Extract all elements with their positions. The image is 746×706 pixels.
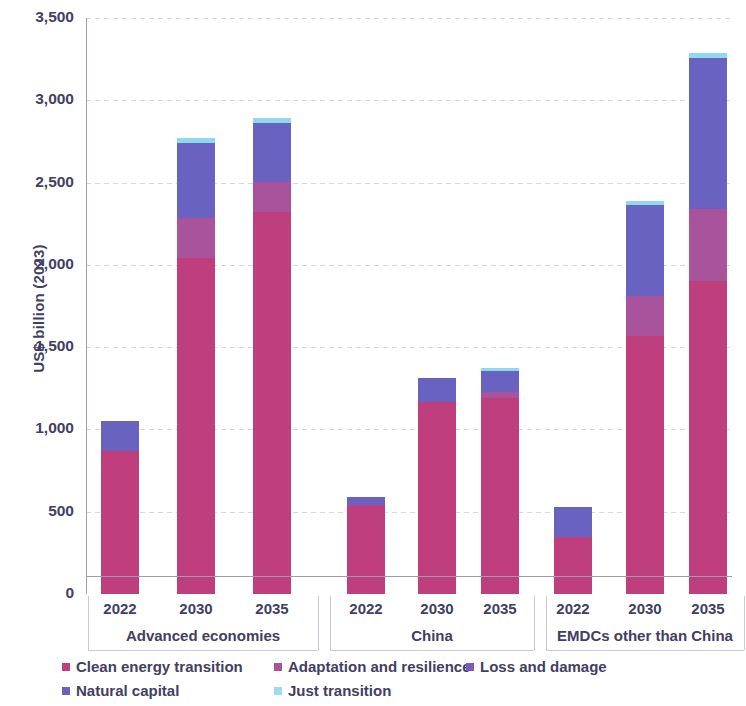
group-separator: [534, 596, 535, 650]
bar-segment-clean-energy-transition: [177, 258, 215, 594]
bar-segment-clean-energy-transition: [554, 537, 592, 594]
x-axis-tick-label: 2035: [668, 600, 746, 617]
group-separator: [318, 596, 319, 650]
bar-emdcs-other-than-china-2035[interactable]: [689, 53, 727, 594]
group-bracket-bottom: [546, 650, 744, 651]
bar-emdcs-other-than-china-2022[interactable]: [554, 507, 592, 594]
bar-segment-natural-capital: [481, 371, 519, 392]
bar-china-2035[interactable]: [481, 368, 519, 594]
chart-container: US$ billion (2023) 05001,0001,5002,0002,…: [0, 0, 746, 706]
legend-label: Clean energy transition: [76, 658, 243, 675]
legend-label: Natural capital: [76, 682, 179, 699]
bar-segment-clean-energy-transition: [347, 505, 385, 594]
bar-segment-natural-capital: [418, 378, 456, 402]
bar-segment-natural-capital: [101, 421, 139, 451]
bar-segment-natural-capital: [554, 507, 592, 537]
bar-segment-clean-energy-transition: [253, 212, 291, 594]
x-axis-tick-label: 2022: [533, 600, 613, 617]
x-axis-group-label: China: [330, 627, 534, 644]
y-axis-tick-label: 1,500: [0, 337, 74, 355]
y-axis-line: [86, 18, 87, 594]
gridline: [86, 18, 732, 19]
y-axis-tick-label: 3,000: [0, 90, 74, 108]
legend-swatch-icon: [62, 687, 70, 695]
y-axis-tick-label: 2,500: [0, 173, 74, 191]
group-separator: [546, 596, 547, 650]
bar-segment-natural-capital: [689, 58, 727, 209]
bar-china-2022[interactable]: [347, 497, 385, 594]
bar-segment-clean-energy-transition: [101, 451, 139, 594]
legend-item-adaptation-and-resilience[interactable]: Adaptation and resilience: [274, 658, 471, 675]
bar-segment-adaptation-and-resilience: [689, 209, 727, 281]
group-bracket-bottom: [330, 650, 534, 651]
x-axis-group-label: Advanced economies: [88, 627, 318, 644]
legend-label: Adaptation and resilience: [288, 658, 471, 675]
y-axis-title: US$ billion (2023): [30, 179, 47, 439]
legend-item-clean-energy-transition[interactable]: Clean energy transition: [62, 658, 243, 675]
x-axis-tick-label: 2035: [460, 600, 540, 617]
legend: Clean energy transitionAdaptation and re…: [62, 658, 742, 706]
group-separator: [330, 596, 331, 650]
bar-segment-natural-capital: [347, 497, 385, 505]
group-separator: [88, 596, 89, 650]
bar-advanced-economies-2030[interactable]: [177, 138, 215, 594]
legend-label: Loss and damage: [480, 658, 607, 675]
x-axis-group-label: EMDCs other than China: [546, 627, 744, 644]
plot-area: [86, 18, 732, 594]
y-axis-tick-label: 0: [0, 584, 74, 602]
legend-swatch-icon: [466, 663, 474, 671]
bar-segment-adaptation-and-resilience: [481, 392, 519, 399]
bar-segment-clean-energy-transition: [626, 336, 664, 594]
legend-row-2: Natural capitalJust transition: [62, 682, 742, 706]
bar-segment-natural-capital: [626, 205, 664, 296]
legend-label: Just transition: [288, 682, 391, 699]
legend-item-loss-and-damage[interactable]: Loss and damage: [466, 658, 607, 675]
legend-item-natural-capital[interactable]: Natural capital: [62, 682, 179, 699]
bar-emdcs-other-than-china-2030[interactable]: [626, 201, 664, 594]
x-axis-tick-label: 2030: [156, 600, 236, 617]
legend-row-1: Clean energy transitionAdaptation and re…: [62, 658, 742, 682]
y-axis-tick-label: 500: [0, 502, 74, 520]
bar-advanced-economies-2022[interactable]: [101, 421, 139, 594]
x-axis-line: [86, 576, 732, 577]
legend-swatch-icon: [274, 663, 282, 671]
gridline: [86, 100, 732, 101]
y-axis-tick-label: 3,500: [0, 8, 74, 26]
y-axis-tick-label: 2,000: [0, 255, 74, 273]
bar-segment-clean-energy-transition: [481, 398, 519, 594]
x-axis-tick-label: 2035: [232, 600, 312, 617]
bar-segment-natural-capital: [177, 143, 215, 218]
bar-segment-adaptation-and-resilience: [177, 218, 215, 258]
bar-segment-clean-energy-transition: [689, 281, 727, 594]
legend-item-just-transition[interactable]: Just transition: [274, 682, 391, 699]
bar-segment-natural-capital: [253, 123, 291, 182]
x-axis-tick-label: 2022: [80, 600, 160, 617]
bar-segment-clean-energy-transition: [418, 402, 456, 594]
y-axis-tick-label: 1,000: [0, 419, 74, 437]
legend-swatch-icon: [274, 687, 282, 695]
group-bracket-bottom: [88, 650, 318, 651]
bar-segment-adaptation-and-resilience: [626, 296, 664, 335]
x-axis-tick-label: 2022: [326, 600, 406, 617]
bar-china-2030[interactable]: [418, 378, 456, 594]
bar-segment-adaptation-and-resilience: [253, 182, 291, 212]
bar-advanced-economies-2035[interactable]: [253, 118, 291, 594]
group-separator: [744, 596, 745, 650]
legend-swatch-icon: [62, 663, 70, 671]
